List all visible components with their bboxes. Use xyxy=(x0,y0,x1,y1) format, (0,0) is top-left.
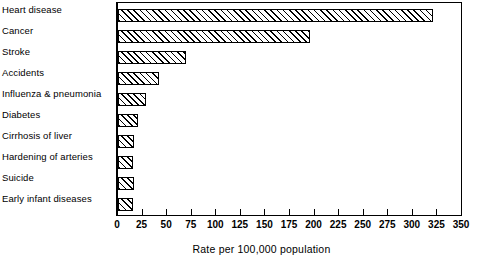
x-tick-label: 0 xyxy=(114,219,120,231)
bar-early-infant-diseases xyxy=(118,198,133,211)
x-tick-mark xyxy=(117,209,118,216)
x-tick-mark xyxy=(142,209,143,216)
x-tick-mark xyxy=(240,209,241,216)
bar-cancer xyxy=(118,30,310,43)
x-axis-title: Rate per 100,000 population xyxy=(0,243,483,256)
category-label: Suicide xyxy=(0,172,106,183)
x-tick-label: 325 xyxy=(428,219,445,231)
x-tick-label: 350 xyxy=(453,219,470,231)
x-tick-label: 200 xyxy=(305,219,322,231)
x-tick-mark xyxy=(338,209,339,216)
bar-chart: Heart diseaseCancerStrokeAccidentsInflue… xyxy=(0,0,483,264)
x-tick-label: 250 xyxy=(354,219,371,231)
category-label: Cirrhosis of liver xyxy=(0,130,106,141)
x-tick-mark xyxy=(387,209,388,216)
x-tick-mark xyxy=(412,209,413,216)
x-tick-mark xyxy=(461,209,462,216)
bar-heart-disease xyxy=(118,9,433,22)
category-label: Heart disease xyxy=(0,4,106,15)
x-tick-label: 75 xyxy=(185,219,196,231)
x-tick-label: 275 xyxy=(379,219,396,231)
x-tick-label: 225 xyxy=(330,219,347,231)
x-tick-label: 100 xyxy=(207,219,224,231)
bar-influenza-pneumonia xyxy=(118,93,146,106)
bar-suicide xyxy=(118,177,134,190)
x-tick-mark xyxy=(314,209,315,216)
category-label: Hardening of arteries xyxy=(0,151,106,162)
x-tick-label: 150 xyxy=(256,219,273,231)
category-axis: Heart diseaseCancerStrokeAccidentsInflue… xyxy=(0,2,112,215)
x-tick-mark xyxy=(166,209,167,216)
bar-diabetes xyxy=(118,114,138,127)
x-tick-label: 25 xyxy=(136,219,147,231)
bar-hardening-of-arteries xyxy=(118,156,133,169)
x-tick-label: 125 xyxy=(232,219,249,231)
bar-accidents xyxy=(118,72,159,85)
x-tick-mark xyxy=(264,209,265,216)
x-tick-mark xyxy=(436,209,437,216)
category-label: Diabetes xyxy=(0,109,106,120)
category-label: Accidents xyxy=(0,67,106,78)
category-label: Early infant diseases xyxy=(0,193,106,204)
category-label: Cancer xyxy=(0,25,106,36)
x-tick-mark xyxy=(215,209,216,216)
category-label: Influenza & pneumonia xyxy=(0,88,106,99)
x-tick-label: 50 xyxy=(161,219,172,231)
x-tick-label: 300 xyxy=(404,219,421,231)
x-tick-mark xyxy=(363,209,364,216)
x-tick-mark xyxy=(289,209,290,216)
bar-stroke xyxy=(118,51,186,64)
bar-cirrhosis-of-liver xyxy=(118,135,134,148)
plot-area xyxy=(116,2,462,215)
category-label: Stroke xyxy=(0,46,106,57)
x-tick-mark xyxy=(191,209,192,216)
x-tick-label: 175 xyxy=(281,219,298,231)
